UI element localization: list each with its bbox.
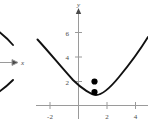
y-tick-group: 6 4 2 xyxy=(66,30,83,87)
left-fragment-group: x xyxy=(0,28,25,95)
data-point-upper xyxy=(91,78,97,84)
parabola-curve xyxy=(38,37,149,95)
left-fragment-lower-curve xyxy=(0,80,13,95)
graph-svg: x 6 4 2 -2 xyxy=(0,0,148,127)
y-tick-label-2: 2 xyxy=(66,79,70,87)
x-tick-label-neg2: -2 xyxy=(47,113,53,121)
x-tick-group: -2 2 4 xyxy=(47,102,138,121)
y-tick-label-4: 4 xyxy=(66,54,70,62)
x-tick-label-4: 4 xyxy=(134,113,138,121)
main-axes-group xyxy=(36,8,148,119)
y-tick-label-6: 6 xyxy=(66,30,70,38)
left-fragment-upper-curve xyxy=(0,28,13,45)
y-axis-label: y xyxy=(76,1,81,9)
x-tick-label-2: 2 xyxy=(105,113,109,121)
marked-points-group xyxy=(91,78,97,95)
data-point-vertex xyxy=(91,89,97,95)
left-fragment-x-label: x xyxy=(20,59,25,67)
left-fragment-x-axis-arrow xyxy=(12,60,18,66)
figure-container: x 6 4 2 -2 xyxy=(0,0,148,127)
